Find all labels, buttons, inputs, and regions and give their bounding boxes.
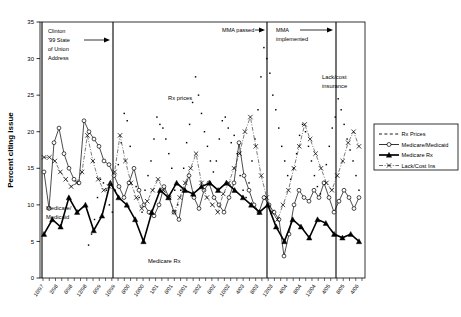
data-point-dotted-square [308, 146, 309, 147]
data-point-open-circle [102, 159, 106, 163]
y-tick-label: 20 [27, 129, 34, 135]
data-point-dotted-square [156, 116, 157, 117]
data-point-dotted-square [147, 175, 148, 176]
data-point-dotted-square [126, 120, 127, 121]
inline-label-medicare-medicaid-line-0: Medicare/ [46, 205, 72, 211]
y-tick-label: 30 [27, 56, 34, 62]
data-point-dotted-square [162, 127, 163, 128]
data-point-dotted-square [204, 131, 205, 132]
data-point-open-circle [302, 196, 306, 200]
data-point-dotted-square [129, 146, 130, 147]
data-point-open-circle [242, 174, 246, 178]
data-point-open-circle [127, 181, 131, 185]
data-point-open-circle [222, 210, 226, 214]
data-point-open-circle [237, 141, 241, 145]
legend-label: Rx Prices [402, 131, 426, 137]
data-point-dotted-square [124, 113, 125, 114]
chart-root: 05101520253035 Percent citing issue 10/9… [0, 0, 461, 317]
data-point-dotted-square [269, 72, 270, 73]
data-point-dotted-square [225, 116, 226, 117]
data-point-dotted-square [210, 160, 211, 161]
annotation-mma-implemented-line-0: MMA [276, 27, 289, 33]
data-point-open-circle [42, 170, 46, 174]
data-point-dotted-square [245, 197, 246, 198]
legend-label: Medicare/Medicaid [402, 142, 449, 148]
data-point-dotted-square [257, 109, 258, 110]
data-point-dotted-square [355, 175, 356, 176]
chart-legend: Rx PricesMedicare/MedicaidMedicare RxLac… [374, 124, 458, 170]
data-point-dotted-square [222, 120, 223, 121]
data-point-open-circle [327, 196, 331, 200]
legend-item-medicare-medicaid[interactable]: Medicare/Medicaid [379, 142, 448, 148]
data-point-dotted-square [299, 135, 300, 136]
data-point-dotted-square [192, 102, 193, 103]
data-point-open-circle [387, 143, 391, 147]
data-point-dotted-square [88, 244, 89, 245]
data-point-dotted-square [216, 160, 217, 161]
data-point-dotted-square [141, 211, 142, 212]
data-point-dotted-square [266, 58, 267, 59]
inline-label-lack-cost-insurance-line-0: Lack/cost [322, 74, 347, 80]
data-point-open-circle [92, 137, 96, 141]
data-point-dotted-square [278, 127, 279, 128]
data-point-dotted-square [326, 164, 327, 165]
data-point-open-circle [307, 199, 311, 203]
data-point-dotted-square [100, 179, 101, 180]
data-point-dotted-square [230, 142, 231, 143]
data-point-dotted-square [159, 124, 160, 125]
data-point-dotted-square [144, 190, 145, 191]
data-point-open-circle [292, 203, 296, 207]
data-point-open-circle [62, 152, 66, 156]
data-point-dotted-square [118, 164, 119, 165]
data-point-dotted-square [150, 160, 151, 161]
data-point-dotted-square [109, 204, 110, 205]
data-point-dotted-square [213, 171, 214, 172]
data-point-dotted-square [239, 175, 240, 176]
data-point-open-circle [132, 166, 136, 170]
data-point-dotted-square [272, 94, 273, 95]
inline-label-medicare-rx: Medicare Rx [148, 258, 181, 264]
data-point-dotted-square [112, 211, 113, 212]
data-point-dotted-square [186, 142, 187, 143]
inline-label-medicare-medicaid-line-1: Medicaid [46, 214, 69, 220]
data-point-dotted-square [242, 190, 243, 191]
annotation-clinton-line-2: of Union [48, 46, 69, 52]
data-point-open-circle [317, 196, 321, 200]
data-point-open-circle [87, 130, 91, 134]
data-point-open-circle [227, 196, 231, 200]
data-point-open-circle [122, 196, 126, 200]
y-tick-label: 35 [27, 19, 34, 25]
data-point-dotted-square [201, 113, 202, 114]
data-point-dotted-square [106, 190, 107, 191]
inline-label-lack-cost-insurance-line-1: insurance [322, 83, 347, 89]
data-point-dotted-square [349, 149, 350, 150]
data-point-open-circle [282, 254, 286, 258]
data-point-dotted-square [219, 138, 220, 139]
data-point-dotted-square [153, 138, 154, 139]
data-point-dotted-square [135, 186, 136, 187]
data-point-open-circle [82, 119, 86, 123]
data-point-dotted-square [174, 190, 175, 191]
data-point-open-circle [247, 188, 251, 192]
data-point-dotted-square [198, 94, 199, 95]
legend-label: Lack/Cost Ins [402, 163, 436, 169]
data-point-open-circle [272, 210, 276, 214]
data-point-open-circle [312, 188, 316, 192]
data-point-open-circle [72, 177, 76, 181]
data-point-open-circle [232, 181, 236, 185]
data-point-dotted-square [302, 124, 303, 125]
annotation-clinton-line-3: Address [48, 55, 69, 61]
data-point-open-circle [67, 166, 71, 170]
data-point-open-circle [212, 196, 216, 200]
data-point-dotted-square [343, 124, 344, 125]
data-point-dotted-square [340, 109, 341, 110]
data-point-dotted-square [171, 168, 172, 169]
data-point-dotted-square [346, 138, 347, 139]
y-tick-label: 25 [27, 92, 34, 98]
y-tick-label: 15 [27, 165, 34, 171]
data-point-dotted-square [207, 146, 208, 147]
data-point-dotted-square [358, 190, 359, 191]
annotation-mma-implemented-line-1: implemented [276, 36, 308, 42]
data-point-dotted-square [311, 160, 312, 161]
data-point-open-circle [332, 210, 336, 214]
